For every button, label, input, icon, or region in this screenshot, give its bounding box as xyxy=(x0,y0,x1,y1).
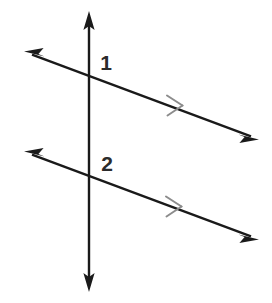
geometry-canvas: 1 2 xyxy=(0,0,272,303)
angle-label-1: 1 xyxy=(100,51,112,74)
geometry-diagram: 1 2 xyxy=(0,0,272,303)
diagram-background xyxy=(0,0,272,303)
angle-label-2: 2 xyxy=(101,152,113,175)
